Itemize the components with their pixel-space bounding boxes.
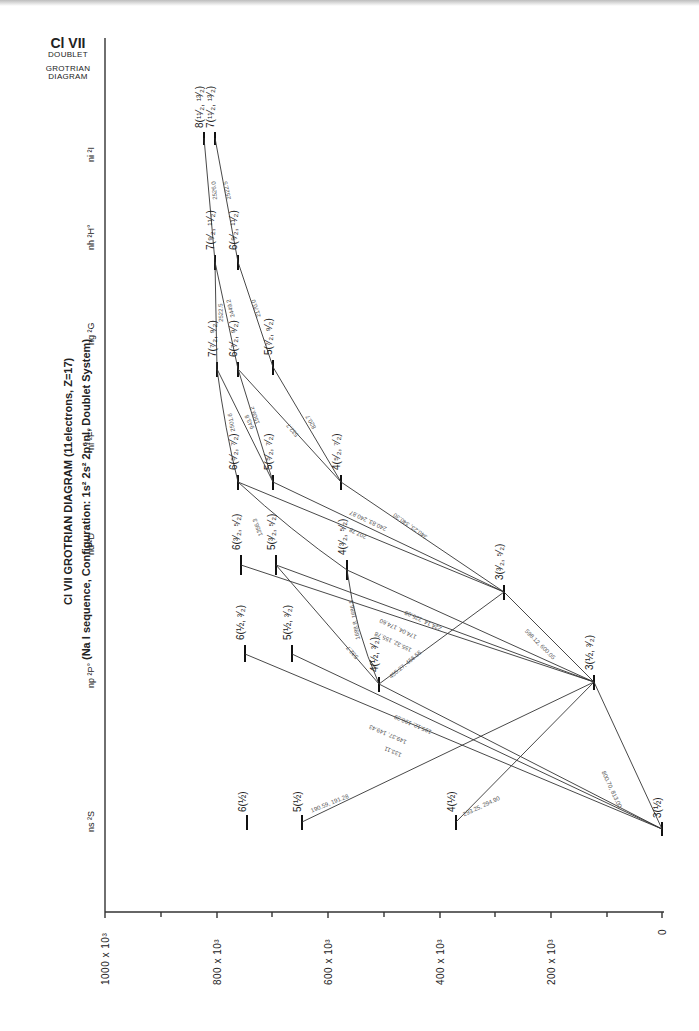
- level-6s: 6(½): [237, 791, 248, 812]
- level-6h: 6(⁹⁄₂, ¹¹⁄₂): [228, 210, 239, 250]
- level-5f: 5(⁵⁄₂, ⁷⁄₂): [263, 433, 274, 470]
- level-7g: 7(⁷⁄₂, ⁹⁄₂): [207, 320, 218, 357]
- level-3d: 3(³⁄₂, ⁵⁄₂): [494, 544, 505, 580]
- level-4f: 4(⁵⁄₂, ⁷⁄₂): [331, 433, 342, 470]
- level-6f: 6(⁵⁄₂, ⁷⁄₂): [228, 433, 239, 470]
- level-4p: 4(½, ³⁄₂): [369, 637, 380, 672]
- level-4d: 4(³⁄₂, ⁵⁄₂): [337, 519, 348, 555]
- level-6d: 6(³⁄₂, ⁵⁄₂): [231, 514, 242, 550]
- level-7i: 7(¹¹⁄₂, ¹³⁄₂): [205, 86, 216, 128]
- level-4s: 4(½): [446, 791, 457, 812]
- level-6g: 6(⁷⁄₂, ⁹⁄₂): [228, 320, 239, 357]
- wl-7g-7h: 2522.5: [217, 303, 224, 322]
- level-7h: 7(⁹⁄₂, ¹¹⁄₂): [205, 210, 216, 250]
- level-6p: 6(½, ³⁄₂): [235, 605, 246, 640]
- level-3s: 3(½): [652, 797, 663, 818]
- level-8i: 8(¹¹⁄₂, ¹³⁄₂): [194, 86, 205, 128]
- level-5d: 5(³⁄₂, ⁵⁄₂): [266, 514, 277, 550]
- level-3p: 3(½, ³⁄₂): [584, 635, 595, 670]
- level-5g: 5(⁷⁄₂, ⁹⁄₂): [263, 318, 274, 355]
- level-5p: 5(½, ³⁄₂): [282, 605, 293, 640]
- level-5s: 5(½): [292, 791, 303, 812]
